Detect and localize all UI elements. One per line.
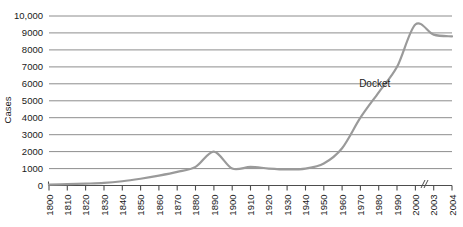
- x-axis-tick-label: 1890: [209, 195, 220, 216]
- x-axis-tick-label: 1830: [99, 195, 110, 216]
- docket-annotation-label: Docket: [359, 78, 390, 89]
- x-axis-tick-label: 1810: [62, 195, 73, 216]
- y-axis-tick-labels: 010002000300040005000600070008000900010,…: [14, 10, 43, 191]
- y-axis-tick-label: 4000: [22, 112, 43, 123]
- x-axis-tick-label: 1880: [190, 195, 201, 216]
- y-axis-tick-label: 0: [38, 180, 43, 191]
- x-axis-tick-label: 1860: [154, 195, 165, 216]
- y-axis-tick-label: 7000: [22, 61, 43, 72]
- x-axis-tick-label: 1820: [80, 195, 91, 216]
- axis-break-marker: [421, 180, 428, 188]
- y-axis-tick-label: 8000: [22, 44, 43, 55]
- y-axis-tick-label: 9000: [22, 27, 43, 38]
- x-axis-tick-label: 1960: [337, 195, 348, 216]
- x-axis-tick-label: 1920: [263, 195, 274, 216]
- line-chart: 010002000300040005000600070008000900010,…: [0, 0, 463, 227]
- docket-series-line: [49, 23, 452, 184]
- x-axis-tick-label: 1970: [355, 195, 366, 216]
- x-axis-tick-label: 1930: [282, 195, 293, 216]
- x-axis-tick-label: 1910: [245, 195, 256, 216]
- x-axis-tick-label: 1980: [373, 195, 384, 216]
- x-axis-tick-label: 1990: [392, 195, 403, 216]
- y-axis-tick-label: 6000: [22, 78, 43, 89]
- x-axis-tick-label: 2004: [447, 195, 458, 216]
- y-axis-tick-label: 10,000: [14, 10, 43, 21]
- x-axis-tick-marks: [49, 186, 452, 191]
- y-axis-tick-label: 3000: [22, 129, 43, 140]
- x-axis-tick-label: 1870: [172, 195, 183, 216]
- gridlines: [49, 16, 452, 169]
- x-axis-tick-labels: 1800181018201830184018501860187018801890…: [44, 194, 458, 215]
- x-axis-tick-label: 1940: [300, 195, 311, 216]
- x-axis-tick-label: 1900: [227, 194, 238, 215]
- chart-container: 010002000300040005000600070008000900010,…: [0, 0, 463, 227]
- x-axis-tick-label: 2000: [410, 195, 421, 216]
- y-axis-tick-label: 5000: [22, 95, 43, 106]
- y-axis-title: Cases: [2, 96, 13, 123]
- y-axis-tick-label: 2000: [22, 146, 43, 157]
- x-axis-tick-label: 1840: [117, 195, 128, 216]
- x-axis-tick-label: 1850: [135, 195, 146, 216]
- x-axis-tick-label: 1950: [318, 195, 329, 216]
- y-axis-tick-label: 1000: [22, 163, 43, 174]
- x-axis-tick-label: 2003: [428, 195, 439, 216]
- x-axis-tick-label: 1800: [44, 195, 55, 216]
